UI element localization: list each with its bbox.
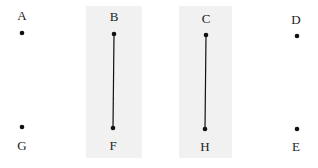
point-H <box>203 127 208 132</box>
point-label-F: F <box>109 139 116 152</box>
point-F <box>111 126 116 131</box>
segment-CH <box>205 35 206 129</box>
diagram-canvas <box>0 0 318 168</box>
point-A <box>20 31 25 36</box>
point-D <box>295 34 300 39</box>
segment-BF <box>113 34 114 128</box>
point-E <box>295 127 300 132</box>
point-label-E: E <box>292 140 300 153</box>
point-C <box>204 33 209 38</box>
point-label-C: C <box>202 12 211 25</box>
point-label-B: B <box>110 10 119 23</box>
point-label-G: G <box>17 139 26 152</box>
point-B <box>112 32 117 37</box>
point-label-A: A <box>17 9 26 22</box>
point-label-D: D <box>291 13 300 26</box>
point-G <box>20 125 25 130</box>
point-label-H: H <box>200 140 209 153</box>
